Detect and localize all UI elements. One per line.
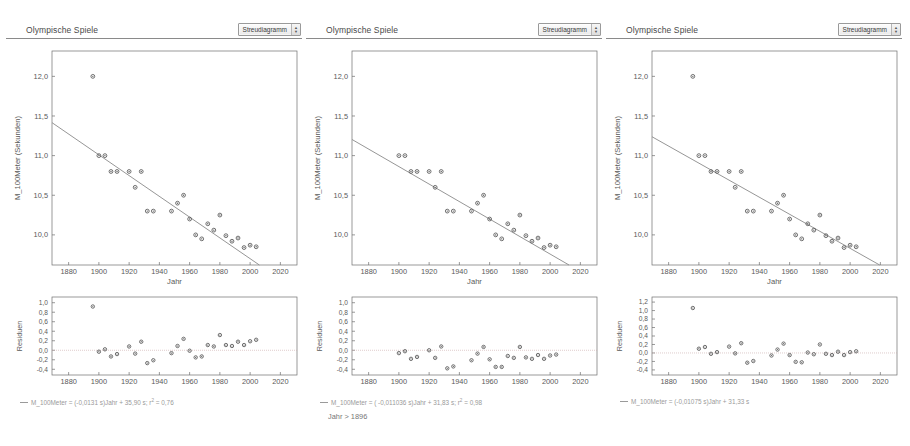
svg-text:2000: 2000 (242, 267, 258, 276)
svg-text:M_100Meter (Sekunden): M_100Meter (Sekunden) (13, 116, 22, 200)
svg-text:2020: 2020 (572, 267, 588, 276)
svg-text:0,6: 0,6 (339, 318, 348, 325)
plot-area[interactable]: 12,011,511,010,510,018801900192019401960… (606, 39, 902, 407)
svg-text:2000: 2000 (542, 377, 558, 386)
svg-text:0,2: 0,2 (39, 337, 48, 344)
svg-text:11,5: 11,5 (634, 112, 648, 121)
chevron-updown-icon[interactable]: ▲▼ (591, 24, 600, 35)
scatterplot-board-2[interactable]: Olympische Spiele Streudiagramm ▲▼ 12,01… (306, 22, 602, 406)
svg-text:0,0: 0,0 (639, 349, 648, 356)
svg-text:1900: 1900 (691, 377, 707, 386)
svg-text:11,0: 11,0 (634, 151, 648, 160)
filter-expression[interactable]: Jahr > 1896 (328, 412, 367, 421)
svg-text:10,5: 10,5 (34, 191, 48, 200)
svg-text:1940: 1940 (151, 267, 167, 276)
svg-text:-0,4: -0,4 (337, 366, 349, 373)
svg-text:1960: 1960 (781, 377, 797, 386)
svg-text:10,0: 10,0 (34, 230, 48, 239)
regression-legend[interactable]: M_100Meter = (-0,0131 s)Jahr + 35,90 s; … (20, 398, 174, 406)
plot-type-chooser[interactable]: Streudiagramm ▲▼ (538, 23, 601, 36)
svg-text:1940: 1940 (751, 267, 767, 276)
plot-type-chooser-label: Streudiagramm (539, 24, 591, 35)
board-title: Olympische Spiele (26, 25, 98, 35)
svg-text:1920: 1920 (421, 267, 437, 276)
scatterplot-board-3[interactable]: Olympische Spiele Streudiagramm ▲▼ 12,01… (606, 22, 902, 406)
svg-text:M_100Meter (Sekunden): M_100Meter (Sekunden) (313, 116, 322, 200)
svg-text:M_100Meter (Sekunden): M_100Meter (Sekunden) (613, 116, 622, 200)
svg-text:Residuen: Residuen (615, 321, 624, 351)
svg-text:2020: 2020 (272, 377, 288, 386)
svg-text:2020: 2020 (872, 267, 888, 276)
svg-text:10,0: 10,0 (334, 230, 348, 239)
plot-area[interactable]: 12,011,511,010,510,018801900192019401960… (306, 39, 602, 407)
svg-text:Residuen: Residuen (15, 321, 24, 351)
plot-type-chooser[interactable]: Streudiagramm ▲▼ (238, 23, 301, 36)
svg-text:2020: 2020 (872, 377, 888, 386)
svg-text:1940: 1940 (751, 377, 767, 386)
svg-text:2020: 2020 (272, 267, 288, 276)
svg-text:1960: 1960 (181, 377, 197, 386)
svg-text:0,8: 0,8 (39, 309, 48, 316)
svg-text:-0,2: -0,2 (37, 356, 49, 363)
legend-line-swatch (620, 401, 628, 402)
svg-text:1880: 1880 (660, 377, 676, 386)
svg-text:1960: 1960 (181, 267, 197, 276)
plot-area[interactable]: 12,011,511,010,510,018801900192019401960… (6, 39, 302, 407)
svg-text:2000: 2000 (542, 267, 558, 276)
plot-type-chooser[interactable]: Streudiagramm ▲▼ (838, 23, 901, 36)
legend-line-swatch (20, 402, 28, 403)
svg-text:1880: 1880 (360, 267, 376, 276)
svg-text:1,0: 1,0 (639, 307, 648, 314)
svg-text:10,5: 10,5 (334, 191, 348, 200)
svg-text:1960: 1960 (481, 267, 497, 276)
board-header: Olympische Spiele Streudiagramm ▲▼ (6, 22, 302, 39)
svg-text:1880: 1880 (660, 267, 676, 276)
board-header: Olympische Spiele Streudiagramm ▲▼ (606, 22, 902, 39)
board-title: Olympische Spiele (326, 25, 398, 35)
scatter-and-residual-svg[interactable]: 12,011,511,010,510,018801900192019401960… (306, 39, 602, 407)
svg-text:10,0: 10,0 (634, 230, 648, 239)
svg-text:1980: 1980 (812, 377, 828, 386)
svg-text:12,0: 12,0 (334, 72, 348, 81)
svg-text:2000: 2000 (242, 377, 258, 386)
scatterplot-board-1[interactable]: Olympische Spiele Streudiagramm ▲▼ 12,01… (6, 22, 302, 406)
chevron-updown-icon[interactable]: ▲▼ (291, 24, 300, 35)
svg-text:1,2: 1,2 (639, 298, 648, 305)
svg-text:11,0: 11,0 (334, 151, 348, 160)
board-title: Olympische Spiele (626, 25, 698, 35)
svg-text:Jahr: Jahr (467, 277, 482, 286)
svg-text:1980: 1980 (512, 267, 528, 276)
chevron-updown-icon[interactable]: ▲▼ (891, 24, 900, 35)
svg-text:0,2: 0,2 (339, 337, 348, 344)
plot-type-chooser-label: Streudiagramm (839, 24, 891, 35)
svg-text:1980: 1980 (812, 267, 828, 276)
svg-text:1920: 1920 (121, 267, 137, 276)
scatter-and-residual-svg[interactable]: 12,011,511,010,510,018801900192019401960… (6, 39, 302, 407)
svg-text:0,8: 0,8 (339, 309, 348, 316)
regression-legend[interactable]: M_100Meter = (-0,01075 s)Jahr + 31,33 s (620, 398, 749, 405)
svg-text:0,6: 0,6 (39, 318, 48, 325)
svg-text:1940: 1940 (451, 377, 467, 386)
svg-text:Residuen: Residuen (315, 321, 324, 351)
scatter-and-residual-svg[interactable]: 12,011,511,010,510,018801900192019401960… (606, 39, 902, 407)
svg-text:1920: 1920 (721, 377, 737, 386)
regression-legend[interactable]: M_100Meter = ( -0,011036 s)Jahr + 31,83 … (320, 398, 482, 406)
svg-text:-0,2: -0,2 (637, 358, 649, 365)
svg-text:Jahr: Jahr (167, 277, 182, 286)
svg-text:1,0: 1,0 (39, 299, 48, 306)
board-header: Olympische Spiele Streudiagramm ▲▼ (306, 22, 602, 39)
svg-text:1940: 1940 (151, 377, 167, 386)
svg-text:1880: 1880 (60, 377, 76, 386)
svg-text:1900: 1900 (91, 267, 107, 276)
svg-text:12,0: 12,0 (34, 72, 48, 81)
svg-text:-0,4: -0,4 (637, 366, 649, 373)
svg-text:1960: 1960 (781, 267, 797, 276)
regression-equation: M_100Meter = (-0,01075 s)Jahr + 31,33 s (631, 398, 749, 405)
svg-text:1900: 1900 (391, 267, 407, 276)
legend-line-swatch (320, 402, 328, 403)
svg-text:1960: 1960 (481, 377, 497, 386)
svg-text:1920: 1920 (121, 377, 137, 386)
svg-text:1880: 1880 (60, 267, 76, 276)
regression-equation: M_100Meter = ( -0,011036 s)Jahr + 31,83 … (331, 398, 482, 406)
svg-text:10,5: 10,5 (634, 191, 648, 200)
